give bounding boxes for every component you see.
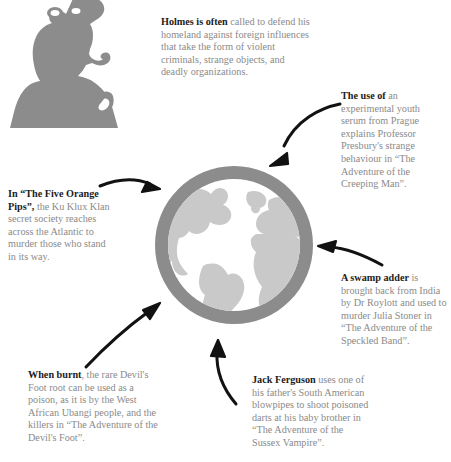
blurb-holmes-intro-lead: Holmes is often (161, 16, 228, 27)
globe-ocean (168, 179, 300, 311)
blurb-holmes-intro: Holmes is often called to defend his hom… (161, 16, 313, 79)
blurb-creeping-man-body: an experimental youth serum from Prague … (341, 90, 420, 189)
blurb-speckled-band-body: is brought back from India by Dr Roylott… (341, 272, 447, 346)
globe-ring (155, 166, 313, 324)
blurb-orange-pips: In “The Five Orange Pips”, the Ku Klux K… (8, 188, 112, 264)
infographic-canvas: Holmes is often called to defend his hom… (0, 0, 451, 462)
arrow-creeping-man (270, 104, 340, 166)
arrow-sussex-vampire (211, 340, 236, 404)
blurb-creeping-man-lead: The use of (341, 90, 386, 101)
blurb-devils-foot: When burnt, the rare Devil's Foot root c… (28, 369, 162, 445)
blurb-sussex-vampire-body: uses one of his father's South American … (252, 374, 368, 448)
blurb-devils-foot-body: , the rare Devil's Foot root can be used… (28, 369, 158, 443)
blurb-sussex-vampire-lead: Jack Ferguson (252, 374, 316, 385)
sherlock-holmes-silhouette (10, 0, 118, 128)
blurb-devils-foot-lead: When burnt (28, 369, 82, 380)
arrow-speckled-band (318, 241, 382, 265)
blurb-speckled-band: A swamp adder is brought back from India… (341, 272, 447, 348)
globe-graphic (153, 166, 334, 349)
arrow-devils-foot (86, 303, 160, 367)
blurb-sussex-vampire: Jack Ferguson uses one of his father's S… (252, 374, 374, 450)
globe-continents (153, 188, 334, 349)
blurb-creeping-man: The use of an experimental youth serum f… (341, 90, 445, 191)
blurb-speckled-band-lead: A swamp adder (341, 272, 409, 283)
